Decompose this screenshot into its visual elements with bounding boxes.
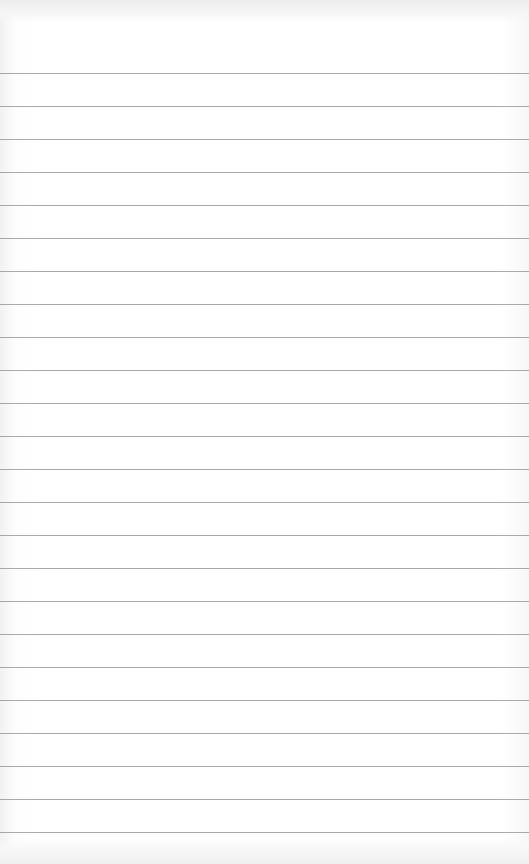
- ruled-line: [0, 238, 529, 239]
- ruled-line: [0, 73, 529, 74]
- ruled-line: [0, 634, 529, 635]
- ruled-line: [0, 337, 529, 338]
- ruled-line: [0, 403, 529, 404]
- ruled-line: [0, 304, 529, 305]
- ruled-line: [0, 271, 529, 272]
- notepad-page: [0, 0, 529, 864]
- ruled-line: [0, 469, 529, 470]
- ruled-line: [0, 568, 529, 569]
- ruled-line: [0, 370, 529, 371]
- ruled-line: [0, 139, 529, 140]
- ruled-line: [0, 799, 529, 800]
- ruled-line: [0, 205, 529, 206]
- ruled-line: [0, 667, 529, 668]
- ruled-line: [0, 700, 529, 701]
- ruled-line: [0, 106, 529, 107]
- ruled-line: [0, 832, 529, 833]
- ruled-line: [0, 172, 529, 173]
- ruled-line: [0, 436, 529, 437]
- ruled-line: [0, 502, 529, 503]
- paper-bottom-edge: [0, 838, 529, 864]
- ruled-line: [0, 535, 529, 536]
- ruled-line: [0, 733, 529, 734]
- ruled-line: [0, 766, 529, 767]
- paper-top-edge: [0, 0, 529, 22]
- ruled-line: [0, 601, 529, 602]
